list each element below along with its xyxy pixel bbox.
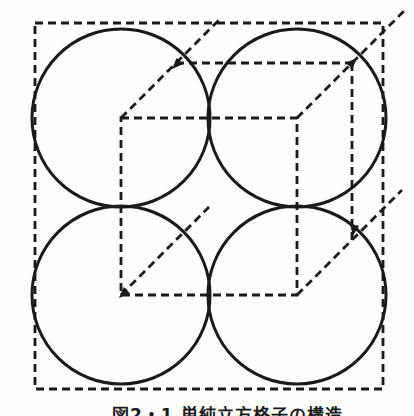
receding-edge-top-left [121,18,221,118]
unit-cell-front-face [121,118,297,295]
outer-boundary-square [35,23,383,389]
figure-caption: 図2・1 単純立方格子の構造 [112,407,412,416]
figure-container: 図2・1 単純立方格子の構造 [0,0,414,416]
receding-edge-bottom-left [121,207,209,295]
arrow-mark-back-top-left [169,58,183,72]
arrow-mark-front-bottom-left [116,287,130,301]
crystal-structure-diagram [0,0,414,416]
